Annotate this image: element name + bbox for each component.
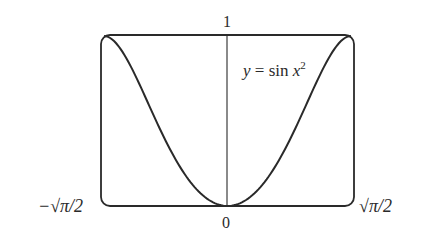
y-tick-1: 1: [223, 14, 231, 30]
function-label-exp: 2: [300, 59, 306, 71]
function-label: y = sin x2: [243, 57, 306, 79]
function-label-y: y: [243, 61, 251, 80]
x-tick-0: 0: [222, 215, 230, 231]
x-tick-sqrt-pi-over-2: √π/2: [359, 198, 392, 214]
x-tick-neg-sqrt-pi-over-2: −√π/2: [38, 198, 83, 214]
function-label-eq: = sin: [251, 61, 293, 80]
